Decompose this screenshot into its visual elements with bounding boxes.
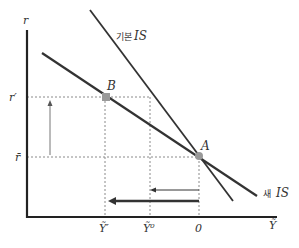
point-a-label: A xyxy=(200,139,210,153)
zero-label: 0 xyxy=(195,222,202,235)
new-is-label: IS xyxy=(275,186,289,200)
point-b-label: B xyxy=(106,79,116,93)
basic-is-label: IS xyxy=(133,29,147,43)
x-axis-label: Ỹ xyxy=(269,218,278,232)
up-arrow-head xyxy=(48,100,53,106)
basic-is-curve xyxy=(90,10,233,201)
y-zero-label: Ỹ⁰ xyxy=(143,221,155,235)
r-bar-label: r̄ xyxy=(15,151,21,164)
point-b xyxy=(102,93,110,101)
y-axis-label: r xyxy=(23,14,29,27)
thin-left-arrow-head xyxy=(150,188,156,193)
basic-is-label-ko: 기본 xyxy=(116,32,132,42)
point-a xyxy=(195,152,203,160)
thick-left-arrow-head xyxy=(108,197,116,205)
new-is-label-ko: 새 xyxy=(263,189,271,199)
r-prime-label: r′ xyxy=(9,91,17,104)
is-curve-diagram: A B r Ỹ r′ r̄ Ỹ′ Ỹ⁰ 0 기본 IS 새 IS xyxy=(0,0,299,248)
y-prime-label: Ỹ′ xyxy=(99,221,109,235)
